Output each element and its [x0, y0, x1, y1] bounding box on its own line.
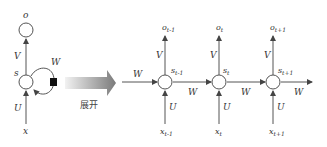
state-label: st	[223, 66, 230, 76]
delay-box-icon	[50, 78, 57, 86]
output-label: ot	[216, 23, 224, 33]
w-label: W	[51, 57, 61, 67]
incoming-w-label: W	[133, 69, 143, 79]
unfold-label: 展开	[80, 100, 98, 110]
unfolded-rnn: W st-1 V ot-1 U xt-1 W st V ot U xt W	[122, 23, 312, 137]
state-node	[266, 75, 280, 89]
u-label: U	[277, 102, 285, 112]
big-arrow-icon	[65, 70, 116, 96]
v-label: V	[264, 50, 272, 60]
input-label: xt+1	[269, 127, 285, 137]
input-label: xt	[215, 127, 223, 137]
state-node	[158, 75, 172, 89]
step-t-minus-1: st-1 V ot-1 U xt-1 W	[156, 23, 211, 137]
output-label: ot-1	[162, 23, 175, 33]
state-label: st-1	[171, 66, 183, 76]
u-label: U	[223, 102, 231, 112]
output-label: ot+1	[270, 23, 286, 33]
v-label: V	[14, 51, 22, 61]
state-node	[212, 75, 226, 89]
output-node	[19, 23, 33, 37]
w-label: W	[241, 87, 251, 97]
step-t: st V ot U xt W	[210, 23, 265, 137]
w-label: W	[294, 87, 304, 97]
u-label: U	[169, 102, 177, 112]
input-label: x	[23, 126, 28, 136]
state-node	[19, 75, 33, 89]
rnn-diagram: o V s W U x 展开 W st-1 V ot-1 U xt-1 W	[0, 0, 327, 147]
u-label: U	[14, 103, 22, 113]
folded-rnn: o V s W U x	[14, 10, 61, 136]
w-label: W	[188, 87, 198, 97]
v-label: V	[210, 50, 218, 60]
step-t-plus-1: st+1 V ot+1 U xt+1 W	[264, 23, 312, 137]
input-label: xt-1	[160, 127, 173, 137]
state-label: s	[14, 68, 19, 78]
state-label: st+1	[278, 66, 293, 76]
unfold-arrow: 展开	[65, 70, 116, 110]
v-label: V	[156, 50, 164, 60]
output-label: o	[23, 10, 29, 20]
